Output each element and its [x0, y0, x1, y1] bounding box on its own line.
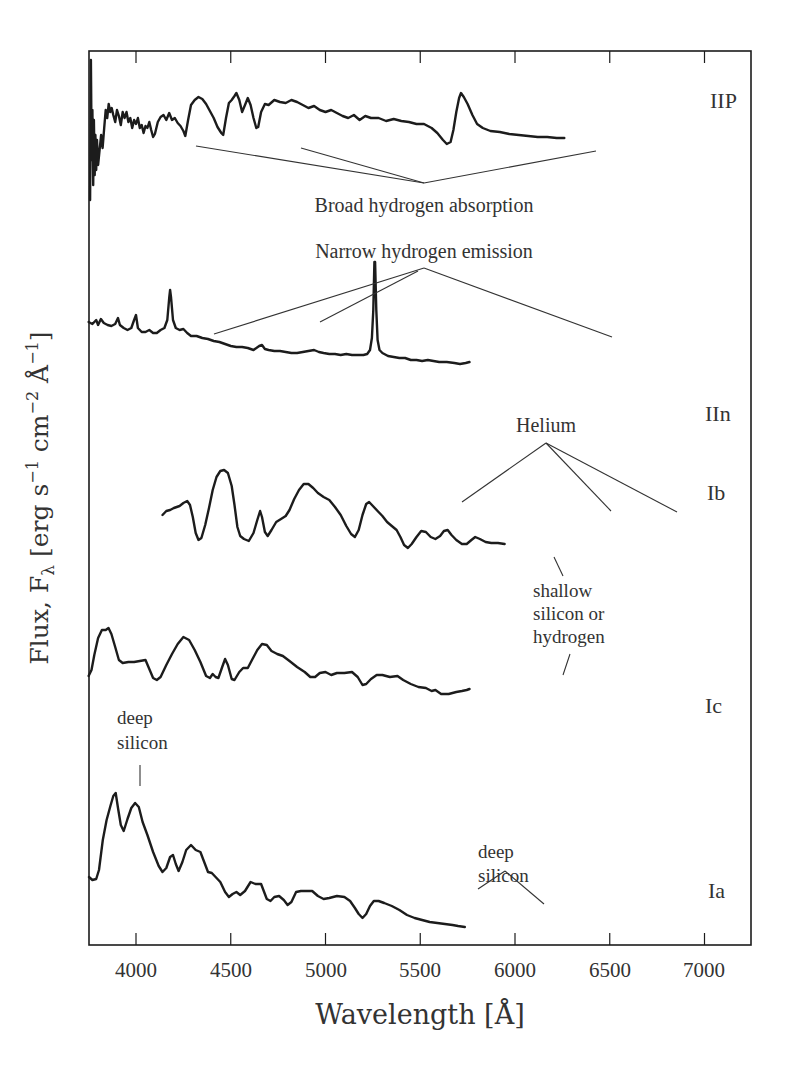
- annotation-label: silicon: [117, 732, 168, 753]
- annotation-narrow-hydrogen: Narrow hydrogen emission: [214, 240, 612, 337]
- spectrum-ib: [163, 470, 505, 548]
- annotation-shallow-silicon: shallow silicon or hydrogen: [533, 557, 605, 675]
- annotation-label: Helium: [516, 414, 576, 436]
- annotation-label: silicon or: [533, 603, 605, 624]
- x-axis-ticks: [136, 51, 705, 945]
- x-tick-label: 4500: [210, 958, 252, 982]
- x-tick-label: 6000: [494, 958, 536, 982]
- x-tick-label: 5500: [399, 958, 441, 982]
- annotation-label: Narrow hydrogen emission: [315, 240, 533, 263]
- x-tick-label: 4000: [115, 958, 157, 982]
- spectra-chart: 4000 4500 5000 5500 6000 6500 7000 Wavel…: [0, 0, 795, 1072]
- annotation-label: deep: [478, 841, 514, 862]
- series-label-iin: IIn: [705, 401, 731, 426]
- series-label-ib: Ib: [707, 480, 725, 505]
- x-tick-label: 5000: [305, 958, 347, 982]
- spectrum-ic: [89, 628, 470, 694]
- annotation-deep-silicon-left: deep silicon: [117, 707, 168, 786]
- annotation-label: Broad hydrogen absorption: [315, 194, 534, 217]
- annotation-deep-silicon-right: deep silicon: [478, 841, 544, 904]
- plot-frame: [89, 51, 751, 945]
- x-tick-label: 6500: [589, 958, 631, 982]
- series-label-ic: Ic: [705, 693, 722, 718]
- x-axis-label: Wavelength [Å]: [315, 998, 524, 1030]
- y-axis-label: Flux, Fλ [erg s−1 cm−2 Å−1]: [23, 331, 58, 664]
- series-label-ia: Ia: [708, 878, 725, 903]
- annotation-label: hydrogen: [533, 626, 605, 647]
- spectrum-ia: [89, 793, 465, 927]
- spectra-series: [89, 60, 565, 927]
- x-tick-label: 7000: [683, 958, 725, 982]
- annotation-label: shallow: [533, 580, 592, 601]
- spectrum-iip: [90, 60, 564, 200]
- annotation-helium: Helium: [462, 414, 677, 512]
- annotation-label: silicon: [478, 865, 529, 886]
- annotation-label: deep: [117, 707, 153, 728]
- series-label-iip: IIP: [710, 88, 737, 113]
- x-tick-labels: 4000 4500 5000 5500 6000 6500 7000: [115, 958, 725, 982]
- annotation-broad-hydrogen: Broad hydrogen absorption: [196, 146, 596, 217]
